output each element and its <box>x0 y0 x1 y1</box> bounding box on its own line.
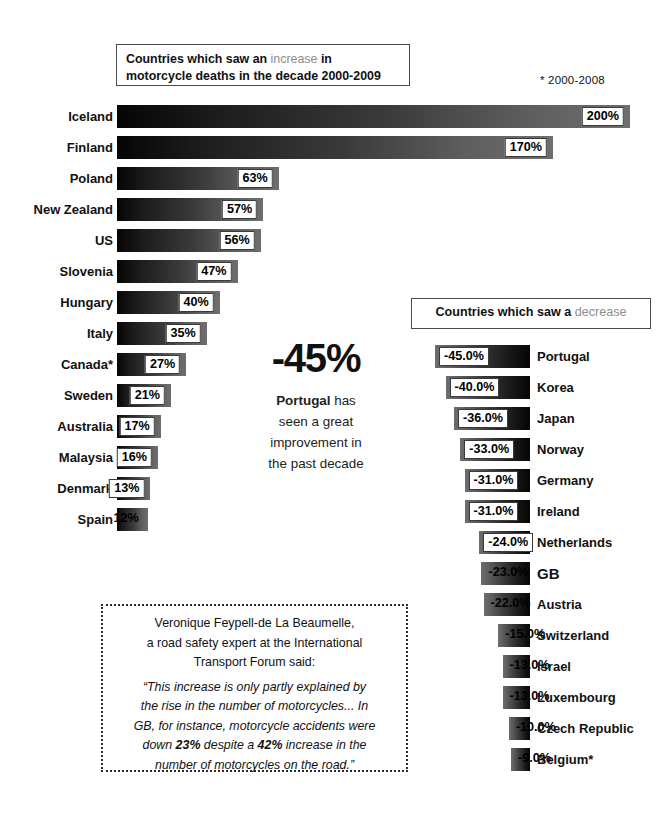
increase-bar-row: Iceland200% <box>0 101 671 132</box>
quote-stat-down: 23% <box>176 738 201 752</box>
decrease-country-label: GB <box>537 558 560 589</box>
decrease-country-label: Japan <box>537 403 575 434</box>
decrease-value-label: -22.0% <box>488 595 534 611</box>
increase-country-label: US <box>0 225 113 256</box>
decrease-bar-row: -45.0%Portugal <box>0 341 671 372</box>
quote-body-line2: the rise in the number of motorcycles...… <box>141 699 368 713</box>
increase-country-label: Iceland <box>0 101 113 132</box>
quote-body-line4-e: increase in the <box>282 738 366 752</box>
decrease-value-label: -24.0% <box>483 533 533 552</box>
quote-attr-line1: Veronique Feypell-de La Beaumelle, <box>155 616 355 630</box>
quote-body: “This increase is only partly explained … <box>113 678 396 776</box>
decrease-bar-row: -40.0%Korea <box>0 372 671 403</box>
increase-header-highlight: increase <box>271 52 318 66</box>
decrease-header-pre: Countries which saw a <box>435 305 574 319</box>
decrease-bar-row: -24.0%Netherlands <box>0 527 671 558</box>
increase-bar-row: Finland170% <box>0 132 671 163</box>
decrease-bar-row: -31.0%Ireland <box>0 496 671 527</box>
decrease-bar-row: -36.0%Japan <box>0 403 671 434</box>
increase-bar <box>117 105 630 128</box>
increase-country-label: New Zealand <box>0 194 113 225</box>
decrease-bar-row: -23.0%GB <box>0 558 671 589</box>
decrease-country-label: Portugal <box>537 341 590 372</box>
quote-attribution: Veronique Feypell-de La Beaumelle, a roa… <box>113 614 396 673</box>
decrease-value-label: -36.0% <box>458 409 508 428</box>
quote-body-line5: number of motorcycles on the road.” <box>155 758 354 772</box>
decrease-country-label: Israel <box>537 651 571 682</box>
increase-bar-row: Slovenia47% <box>0 256 671 287</box>
decrease-country-label: Luxembourg <box>537 682 616 713</box>
decrease-country-label: Ireland <box>537 496 580 527</box>
decrease-header-highlight: decrease <box>575 305 627 319</box>
increase-value-label: 40% <box>178 293 213 312</box>
decrease-value-label: -31.0% <box>469 471 519 490</box>
quote-body-line4-a: down <box>143 738 176 752</box>
increase-value-label: 63% <box>237 169 272 188</box>
quote-box: Veronique Feypell-de La Beaumelle, a roa… <box>101 604 408 772</box>
decrease-country-label: Czech Republic <box>537 713 634 744</box>
increase-value-label: 47% <box>196 262 231 281</box>
infographic-page: Countries which saw an increase in motor… <box>0 0 671 815</box>
increase-country-label: Slovenia <box>0 256 113 287</box>
increase-value-label: 56% <box>219 231 254 250</box>
decrease-country-label: Germany <box>537 465 593 496</box>
increase-bar-row: Poland63% <box>0 163 671 194</box>
quote-body-line1: “This increase is only partly explained … <box>143 680 366 694</box>
decrease-country-label: Norway <box>537 434 584 465</box>
increase-header-line1-post: in <box>317 52 331 66</box>
decrease-value-label: -23.0% <box>485 564 531 580</box>
increase-country-label: Hungary <box>0 287 113 318</box>
increase-value-label: 57% <box>222 200 257 219</box>
quote-body-line3: GB, for instance, motorcycle accidents w… <box>134 719 376 733</box>
decrease-value-label: -40.0% <box>450 378 500 397</box>
decrease-country-label: Switzerland <box>537 620 609 651</box>
decrease-country-label: Netherlands <box>537 527 612 558</box>
decrease-bar-row: -31.0%Germany <box>0 465 671 496</box>
decrease-bar-row: -33.0%Norway <box>0 434 671 465</box>
decrease-header-box: Countries which saw a decrease <box>411 298 651 329</box>
increase-header-line2: motorcycle deaths in the decade 2000-200… <box>126 69 381 83</box>
increase-value-label: 200% <box>582 107 624 126</box>
increase-bar-row: US56% <box>0 225 671 256</box>
decrease-country-label: Austria <box>537 589 582 620</box>
increase-bar <box>117 136 553 159</box>
increase-bar-row: New Zealand57% <box>0 194 671 225</box>
footnote-asterisk: * 2000-2008 <box>540 74 605 86</box>
quote-stat-increase: 42% <box>258 738 283 752</box>
decrease-country-label: Korea <box>537 372 574 403</box>
increase-country-label: Finland <box>0 132 113 163</box>
decrease-value-label: -31.0% <box>469 502 519 521</box>
increase-header-box: Countries which saw an increase in motor… <box>116 44 410 86</box>
increase-country-label: Poland <box>0 163 113 194</box>
decrease-country-label: Belgium* <box>537 744 593 775</box>
quote-body-line4-c: despite a <box>200 738 257 752</box>
increase-value-label: 170% <box>505 138 547 157</box>
increase-header-line1-pre: Countries which saw an <box>126 52 271 66</box>
quote-attr-line2: a road safety expert at the Internationa… <box>147 636 363 650</box>
decrease-value-label: -33.0% <box>464 440 514 459</box>
quote-attr-line3: Transport Forum said: <box>194 655 315 669</box>
decrease-value-label: -45.0% <box>439 347 489 366</box>
